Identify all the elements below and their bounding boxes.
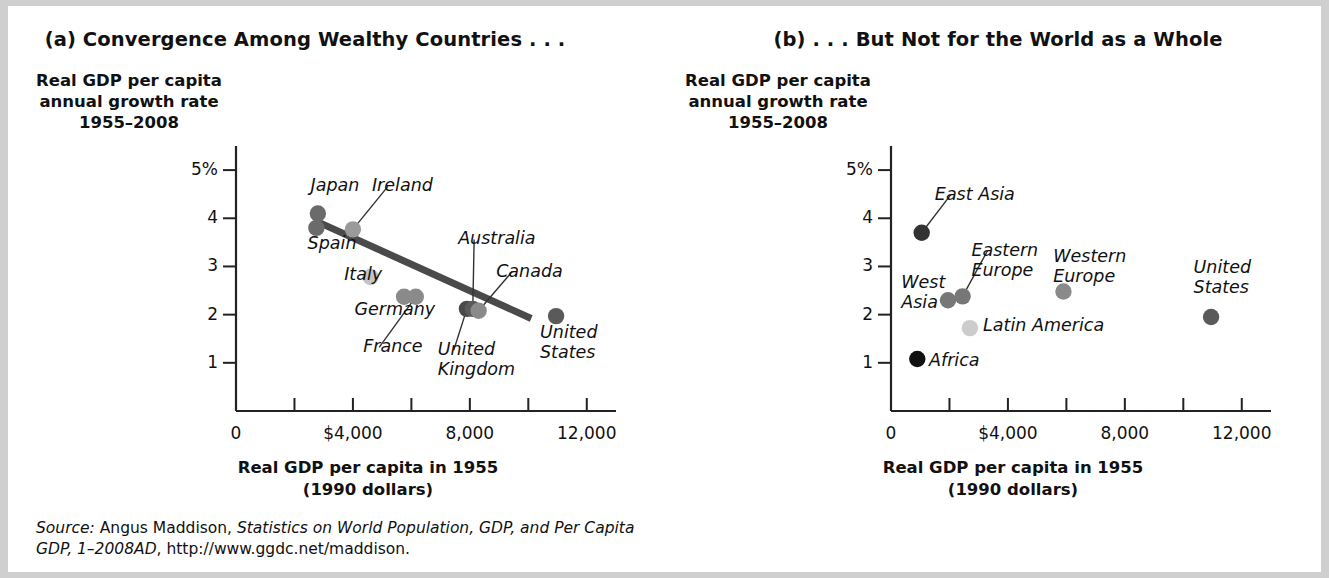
y-tick-label: 5% <box>160 159 218 179</box>
data-point-label: Germany <box>354 299 435 319</box>
x-tick-label: $4,000 <box>963 423 1053 443</box>
y-tick-label: 2 <box>160 304 218 324</box>
y-tick-label: 5% <box>815 159 873 179</box>
figure-container: (a) Convergence Among Wealthy Countries … <box>8 6 1321 572</box>
panel-a: (a) Convergence Among Wealthy Countries … <box>8 6 658 572</box>
panel-b-plot-area: 12345%0$4,0008,00012,000East AsiaWest As… <box>663 6 1313 476</box>
data-point-label: Canada <box>496 261 563 281</box>
source-citation: Source: Angus Maddison, Statistics on Wo… <box>36 518 656 560</box>
x-tick-label: 8,000 <box>1080 423 1170 443</box>
source-author: Angus Maddison, <box>95 519 237 537</box>
y-tick-label: 4 <box>815 207 873 227</box>
panel-a-plot-area: 12345%0$4,0008,00012,000JapanSpainIrelan… <box>8 6 658 476</box>
x-tick-label: $4,000 <box>308 423 398 443</box>
data-point-label: Australia <box>458 228 535 248</box>
data-point-label: Western Europe <box>1053 246 1126 286</box>
x-tick-label: 12,000 <box>1197 423 1287 443</box>
data-point-label: Italy <box>344 264 382 284</box>
y-tick-label: 3 <box>815 255 873 275</box>
data-point-label: United States <box>540 322 598 362</box>
x-tick-label: 12,000 <box>542 423 632 443</box>
y-tick-label: 1 <box>815 352 873 372</box>
source-prefix: Source: <box>36 519 95 537</box>
data-point-label: Ireland <box>372 175 433 195</box>
data-point-label: Japan <box>311 175 360 195</box>
x-tick-label: 0 <box>846 423 936 443</box>
y-tick-label: 2 <box>815 304 873 324</box>
x-tick-label: 0 <box>191 423 281 443</box>
data-point-label: France <box>363 336 422 356</box>
y-tick-label: 4 <box>160 207 218 227</box>
y-tick-label: 1 <box>160 352 218 372</box>
data-point-label: West Asia <box>901 272 945 312</box>
data-point-label: Spain <box>308 233 357 253</box>
data-point-label: Africa <box>929 350 980 370</box>
data-point-label: Eastern Europe <box>971 240 1038 280</box>
data-point-label: East Asia <box>935 184 1015 204</box>
data-point-label: United Kingdom <box>438 339 515 379</box>
data-point-label: Latin America <box>983 315 1104 335</box>
x-tick-label: 8,000 <box>425 423 515 443</box>
data-point-label: United States <box>1194 257 1252 297</box>
panel-b: (b) . . . But Not for the World as a Who… <box>663 6 1313 572</box>
source-url: , http://www.ggdc.net/maddison. <box>157 540 410 558</box>
y-tick-label: 3 <box>160 255 218 275</box>
